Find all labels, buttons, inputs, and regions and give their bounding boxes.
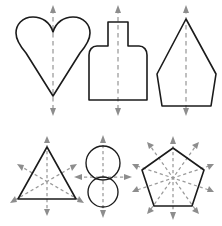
figure-canvas <box>0 0 222 226</box>
figure-background <box>0 0 222 226</box>
symmetry-figure <box>0 0 222 226</box>
